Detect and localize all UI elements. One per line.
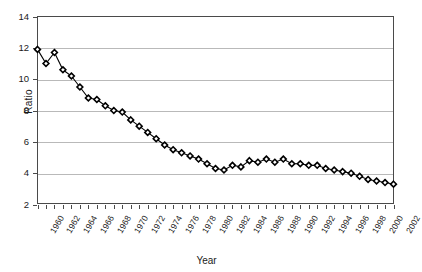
x-tick-mark: [224, 205, 225, 209]
y-tick-label: 12: [3, 43, 29, 53]
x-tick-mark: [283, 205, 284, 209]
x-tick-label: 1988: [286, 214, 303, 235]
x-tick-mark: [300, 205, 301, 209]
y-tick-mark: [33, 79, 37, 80]
x-tick-mark: [292, 205, 293, 209]
x-tick-mark: [173, 205, 174, 209]
x-tick-label: 1964: [82, 214, 99, 235]
x-tick-mark: [334, 205, 335, 209]
x-tick-mark: [394, 205, 395, 209]
x-tick-label: 1960: [48, 214, 65, 235]
x-tick-label: 1984: [252, 214, 269, 235]
x-tick-label: 1978: [201, 214, 218, 235]
x-tick-label: 1974: [167, 214, 184, 235]
plot-area: [37, 16, 394, 204]
x-tick-mark: [148, 205, 149, 209]
x-tick-mark: [105, 205, 106, 209]
x-tick-mark: [266, 205, 267, 209]
x-tick-mark: [326, 205, 327, 209]
gridline: [38, 142, 393, 143]
x-tick-mark: [54, 205, 55, 209]
x-tick-label: 1982: [235, 214, 252, 235]
y-tick-label: 8: [3, 106, 29, 116]
x-tick-mark: [275, 205, 276, 209]
x-tick-label: 2000: [387, 214, 404, 235]
y-tick-label: 6: [3, 137, 29, 147]
y-tick-mark: [33, 142, 37, 143]
x-tick-label: 2002: [404, 214, 421, 235]
x-tick-label: 1986: [269, 214, 286, 235]
x-tick-label: 1968: [116, 214, 133, 235]
x-tick-mark: [80, 205, 81, 209]
x-tick-label: 1990: [303, 214, 320, 235]
x-tick-mark: [114, 205, 115, 209]
x-tick-mark: [385, 205, 386, 209]
gridline: [38, 111, 393, 112]
x-tick-label: 1972: [150, 214, 167, 235]
y-tick-mark: [33, 17, 37, 18]
x-tick-label: 1998: [370, 214, 387, 235]
y-tick-label: 4: [3, 168, 29, 178]
x-tick-mark: [38, 205, 39, 209]
x-tick-mark: [377, 205, 378, 209]
x-tick-mark: [232, 205, 233, 209]
x-tick-mark: [71, 205, 72, 209]
x-tick-mark: [216, 205, 217, 209]
gridline: [38, 80, 393, 81]
y-tick-label: 14: [3, 12, 29, 22]
x-tick-label: 1966: [99, 214, 116, 235]
x-tick-mark: [343, 205, 344, 209]
x-tick-label: 1976: [184, 214, 201, 235]
x-tick-mark: [241, 205, 242, 209]
y-tick-mark: [33, 173, 37, 174]
gridline: [38, 174, 393, 175]
x-tick-mark: [207, 205, 208, 209]
x-tick-mark: [360, 205, 361, 209]
x-tick-mark: [182, 205, 183, 209]
x-tick-mark: [97, 205, 98, 209]
x-tick-mark: [249, 205, 250, 209]
x-tick-mark: [88, 205, 89, 209]
x-tick-label: 1994: [336, 214, 353, 235]
x-tick-label: 1970: [133, 214, 150, 235]
x-tick-mark: [309, 205, 310, 209]
x-tick-mark: [258, 205, 259, 209]
y-tick-label: 2: [3, 200, 29, 210]
x-tick-mark: [156, 205, 157, 209]
x-tick-label: 1962: [65, 214, 82, 235]
x-tick-label: 1980: [218, 214, 235, 235]
x-tick-mark: [46, 205, 47, 209]
x-tick-mark: [317, 205, 318, 209]
x-tick-mark: [190, 205, 191, 209]
y-tick-label: 10: [3, 74, 29, 84]
x-tick-mark: [199, 205, 200, 209]
x-tick-mark: [368, 205, 369, 209]
y-tick-mark: [33, 205, 37, 206]
x-tick-label: 1992: [320, 214, 337, 235]
x-tick-label: 1996: [353, 214, 370, 235]
x-tick-mark: [351, 205, 352, 209]
x-tick-mark: [131, 205, 132, 209]
x-tick-mark: [139, 205, 140, 209]
x-tick-mark: [63, 205, 64, 209]
y-tick-mark: [33, 48, 37, 49]
y-tick-mark: [33, 111, 37, 112]
x-tick-mark: [165, 205, 166, 209]
chart-title-clipped: [110, 0, 310, 3]
x-tick-mark: [122, 205, 123, 209]
x-axis-title: Year: [0, 255, 413, 266]
gridline: [38, 48, 393, 49]
